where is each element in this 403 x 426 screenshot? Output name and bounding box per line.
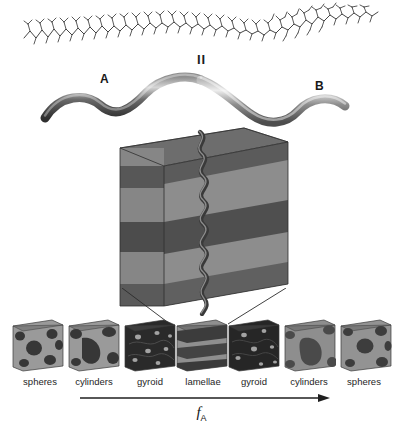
block-a-label: A [100, 72, 109, 86]
cube-side-face [164, 142, 288, 306]
parallel-symbol-label: II [0, 52, 403, 67]
thumbnail-gyroid-left[interactable] [124, 318, 176, 372]
label-spheres-right: spheres [326, 376, 402, 387]
thumbnail-gyroid-right[interactable] [228, 318, 280, 372]
thumbnail-cylinders-left[interactable] [68, 318, 120, 372]
thumbnail-spheres-right[interactable] [340, 318, 392, 372]
axis-variable-label: fA [0, 404, 403, 423]
thumbnail-spheres-left[interactable] [12, 318, 64, 372]
axis-arrowhead [318, 394, 330, 402]
diblock-copolymer-rod [0, 68, 403, 130]
rod-svg [0, 68, 403, 130]
molecular-model-row [0, 0, 403, 58]
morphology-labels: spheres cylinders gyroid lamellae gyroid… [0, 376, 403, 392]
thumbnail-lamellae[interactable] [176, 318, 228, 372]
axis-variable-subscript: A [201, 413, 207, 423]
thumbnail-cylinders-right[interactable] [284, 318, 336, 372]
block-b-label: B [315, 79, 324, 93]
polymer-chain-molecular-model [0, 0, 403, 58]
morphology-thumbnail-strip [0, 316, 403, 374]
cube-front-face [120, 148, 164, 306]
block-copolymer-figure: II A B [0, 0, 403, 426]
